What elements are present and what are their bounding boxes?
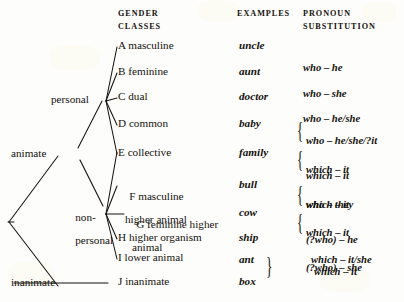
class-H: H higher organism (118, 232, 202, 244)
example-E: family (239, 147, 268, 159)
pronoun-F-brace: { (297, 182, 303, 208)
pronoun-IJ-shared: which – it (314, 266, 357, 277)
header-gender-classes-line1: GENDER (118, 10, 159, 19)
class-E: E collective (118, 147, 171, 159)
node-personal: personal (51, 94, 89, 106)
pronoun-H: which – it/she (311, 232, 372, 289)
branch-personal-D (106, 101, 117, 125)
example-C: doctor (239, 91, 268, 103)
header-pronoun-line1: PRONOUN (303, 10, 351, 19)
example-A: uncle (239, 40, 264, 52)
branch-personal-E (106, 101, 117, 154)
node-nonpersonal-line2: personal (75, 234, 113, 246)
class-A: A masculine (118, 40, 174, 52)
example-J: box (239, 276, 256, 288)
class-I: I lower animal (118, 252, 183, 264)
gender-classes-figure: GENDER CLASSES EXAMPLES PRONOUN SUBSTITU… (0, 0, 404, 302)
example-D: baby (239, 118, 261, 130)
class-G-line1: G feminine higher (136, 218, 218, 230)
example-group-brace: } (266, 252, 272, 281)
example-I: ant (239, 254, 254, 266)
branch-animate-personal (78, 101, 102, 148)
class-B: B feminine (118, 66, 168, 78)
class-C: C dual (118, 91, 148, 103)
node-nonpersonal-line1: non- (75, 211, 96, 223)
example-H: ship (239, 232, 258, 244)
example-B: aunt (239, 66, 260, 78)
node-nonpersonal: non- personal (64, 201, 113, 258)
class-D: D common (118, 118, 168, 130)
example-F: bull (239, 179, 257, 191)
pronoun-G-brace: { (297, 210, 303, 236)
header-examples: EXAMPLES (237, 10, 290, 19)
branch-personal-A (106, 47, 117, 101)
header-pronoun-line2: SUBSTITUTION (303, 23, 376, 32)
branch-personal-C (106, 98, 117, 101)
class-J: J inanimate (118, 276, 169, 288)
pronoun-D-brace: { (297, 118, 303, 144)
node-animate: animate (11, 148, 46, 160)
branch-animate-nonpersonal (80, 160, 103, 206)
example-G: cow (239, 207, 257, 219)
pronoun-E-line1: which – it (306, 164, 353, 177)
branch-personal-B (106, 73, 117, 101)
node-inanimate: inanimate (11, 277, 55, 289)
header-gender-classes-line2: CLASSES (118, 23, 161, 32)
pronoun-E-brace: { (297, 147, 303, 173)
class-F-line1: F masculine (129, 190, 183, 202)
branch-root-animate (9, 156, 58, 222)
pronoun-H-line1: which – it/she (311, 254, 372, 267)
